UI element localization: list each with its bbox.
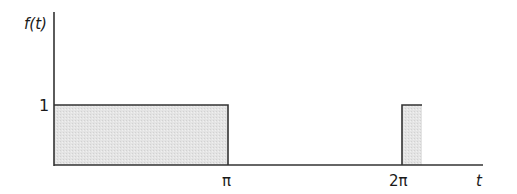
plot-area (0, 0, 517, 194)
pulse-1-fill (54, 105, 228, 165)
x-tick-label-2pi: 2π (389, 174, 408, 189)
y-axis-label: f(t) (24, 17, 47, 32)
x-axis-label: t (476, 174, 482, 189)
y-tick-label-1: 1 (39, 98, 49, 114)
x-tick-label-pi: π (222, 174, 231, 189)
pulse-2-fill (402, 105, 422, 165)
